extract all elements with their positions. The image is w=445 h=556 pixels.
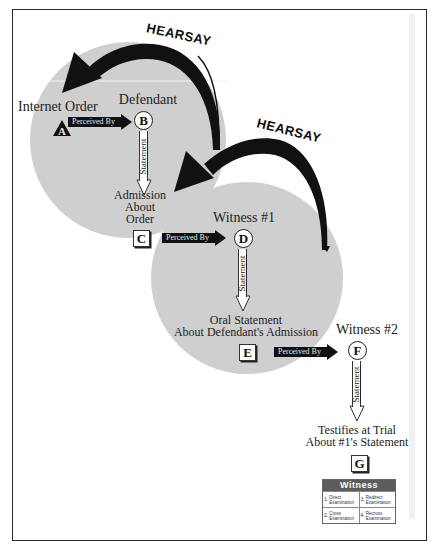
node-a-label: Internet Order xyxy=(18,99,98,115)
witness-table-header: Witness xyxy=(323,480,395,491)
node-d-label: Witness #1 xyxy=(213,210,275,226)
edge-f-g-statement-arrow: Statement xyxy=(352,361,362,407)
witness-table-row: 2. CrossExamination 4. RecrossExaminatio… xyxy=(323,507,395,523)
node-b-circle: B xyxy=(134,111,153,130)
witness-table-cell-redirect: 3. RedirectExamination xyxy=(359,492,396,507)
witness-table-cell-cross: 2. CrossExamination xyxy=(323,508,359,523)
edge-a-b-perceived-by-arrow: Perceived By xyxy=(68,115,132,129)
witness-table-cell-direct: 1. DirectExamination xyxy=(323,492,359,507)
node-c-box: C xyxy=(133,230,150,247)
node-f-circle: F xyxy=(348,341,367,360)
witness-table-cell-recross: 4. RecrossExamination xyxy=(359,508,396,523)
node-g-box: G xyxy=(351,455,368,472)
node-g-label-line-2: About #1's Statement xyxy=(306,435,409,450)
node-b-label: Defendant xyxy=(119,92,177,108)
node-c-label-line-3: Order xyxy=(126,212,154,227)
edge-c-d-perceived-by-arrow: Perceived By xyxy=(162,231,226,245)
node-d-circle: D xyxy=(234,229,253,248)
node-e-box: E xyxy=(239,344,256,361)
diagram-graphics: A xyxy=(0,0,445,556)
node-e-label-line-2: About Defendant's Admission xyxy=(174,325,318,340)
witness-table-row: 1. DirectExamination 3. RedirectExaminat… xyxy=(323,491,395,507)
edge-d-e-statement-arrow: Statement xyxy=(238,249,248,297)
node-f-label: Witness #2 xyxy=(336,322,398,338)
svg-text:A: A xyxy=(58,125,66,137)
witness-examination-table: Witness 1. DirectExamination 3. Redirect… xyxy=(322,479,396,524)
statement-arrowhead-f-g xyxy=(350,406,364,421)
edge-e-f-perceived-by-arrow: Perceived By xyxy=(274,345,338,359)
edge-b-c-statement-arrow: Statement xyxy=(139,131,149,181)
